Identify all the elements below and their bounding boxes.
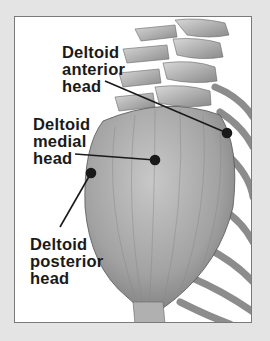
anatomy-figure-panel: Deltoid anterior head Deltoid medial hea…: [14, 16, 252, 323]
label-deltoid-medial-head: Deltoid medial head: [33, 116, 90, 167]
spine-vertebrae: [115, 19, 229, 111]
label-line: anterior: [62, 61, 125, 78]
label-line: head: [33, 150, 90, 167]
label-line: medial: [33, 133, 90, 150]
label-line: head: [62, 78, 125, 95]
label-line: Deltoid: [30, 236, 103, 253]
label-line: posterior: [30, 253, 103, 270]
label-deltoid-anterior-head: Deltoid anterior head: [62, 44, 125, 95]
label-deltoid-posterior-head: Deltoid posterior head: [30, 236, 103, 287]
label-line: head: [30, 270, 103, 287]
label-line: Deltoid: [62, 44, 125, 61]
label-line: Deltoid: [33, 116, 90, 133]
